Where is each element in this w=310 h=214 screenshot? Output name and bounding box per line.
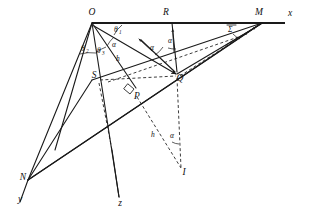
angle-theta2-sub: 2 — [86, 48, 89, 54]
dashed-construction — [99, 25, 259, 168]
point-label-Q: Q — [177, 73, 184, 83]
dashed-P-I — [137, 97, 181, 168]
angle-sigma-base: Σ — [227, 25, 233, 34]
length-label-h-lower: h — [151, 130, 155, 139]
angle-theta1-base: θ — [114, 25, 118, 34]
angle-label-alpha-lower: α — [170, 131, 175, 140]
angle-label-alpha-mid: α — [150, 43, 155, 52]
angle-theta3-sub: 3 — [102, 50, 105, 56]
arc-alpha-mid — [155, 47, 163, 55]
ray-O-to-Q — [94, 26, 176, 74]
right-angle-at-P — [124, 84, 134, 94]
angle-label-alpha-at-O: α — [112, 40, 117, 49]
axis-label-y: y — [17, 194, 23, 204]
plane-edges — [28, 23, 262, 180]
angle-theta2-base: θ — [81, 44, 85, 53]
point-label-S: S — [92, 70, 97, 80]
dashed-Q-I — [177, 78, 181, 168]
angle-label-theta3: θ 3 — [97, 46, 105, 56]
right-angle-square — [124, 84, 134, 94]
segment-O-left-ray — [55, 23, 92, 150]
segment-N-to-M-inner — [28, 24, 260, 180]
angle-label-alpha-at-R: α — [168, 36, 173, 45]
point-label-R: R — [162, 7, 169, 17]
point-label-O: O — [89, 7, 96, 17]
rays-at-Q — [139, 24, 261, 74]
geometry-figure: x y z O R M Q S P N I θ 1 θ 2 θ 3 α α α … — [0, 0, 310, 214]
vertical-R-group — [172, 23, 177, 72]
angle-theta3-base: θ — [97, 46, 101, 55]
dashed-S-Q — [100, 76, 176, 80]
axis-label-x: x — [287, 8, 293, 18]
segment-S-N — [28, 80, 92, 180]
point-label-N: N — [19, 172, 27, 182]
length-label-h-upper: h — [116, 54, 120, 63]
angle-arcs — [80, 25, 240, 144]
point-label-I: I — [181, 167, 186, 177]
arc-alpha-lower — [172, 142, 179, 144]
point-label-P: P — [133, 91, 140, 101]
figure-canvas: x y z O R M Q S P N I θ 1 θ 2 θ 3 α α α … — [0, 0, 310, 214]
angle-theta1-sub: 1 — [119, 29, 122, 35]
z-axis-tail — [112, 150, 119, 197]
point-label-M: M — [254, 7, 264, 17]
axis-label-z: z — [117, 198, 122, 208]
